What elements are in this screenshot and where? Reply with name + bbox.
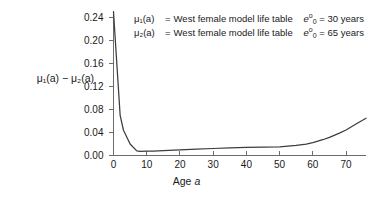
legend-row: μ₂(a) = West female model life table eo0… [134, 27, 364, 41]
x-tick-label: 60 [301, 160, 325, 170]
legend-description: West female model life table [171, 27, 294, 40]
x-axis-title-variable: a [194, 175, 200, 187]
legend-e-value: = 30 years [319, 13, 364, 24]
legend-e-value: = 65 years [319, 27, 364, 38]
x-tick-label: 30 [201, 160, 225, 170]
legend-row: μ₁(a) = West female model life table eo0… [134, 13, 364, 27]
y-tick-label: 0.00 [70, 151, 104, 161]
x-axis-title: Age a [0, 175, 373, 187]
x-tick-label: 40 [234, 160, 258, 170]
y-tick-label: 0.16 [70, 59, 104, 69]
chart-legend: μ₁(a) = West female model life table eo0… [134, 13, 364, 40]
legend-life-expectancy: eo0 = 65 years [294, 27, 364, 41]
x-tick-label: 70 [334, 160, 358, 170]
legend-description: West female model life table [171, 13, 294, 26]
y-tick-label: 0.12 [70, 82, 104, 92]
legend-symbol: μ₂(a) [134, 27, 165, 40]
chart-figure: μ₁(a) − μ₂(a) Age a μ₁(a) = West female … [0, 0, 373, 199]
legend-life-expectancy: eo0 = 30 years [294, 13, 364, 27]
x-tick-label: 10 [135, 160, 159, 170]
x-axis-title-prefix: Age [173, 175, 192, 187]
x-tick-label: 0 [102, 160, 126, 170]
y-tick-label: 0.24 [70, 13, 104, 23]
x-tick-label: 50 [268, 160, 292, 170]
legend-symbol: μ₁(a) [134, 13, 165, 26]
x-tick-label: 20 [168, 160, 192, 170]
legend-e-subscript: 0 [313, 32, 317, 39]
y-tick-label: 0.20 [70, 36, 104, 46]
legend-e-subscript: 0 [313, 18, 317, 25]
y-tick-label: 0.08 [70, 105, 104, 115]
y-tick-label: 0.04 [70, 128, 104, 138]
